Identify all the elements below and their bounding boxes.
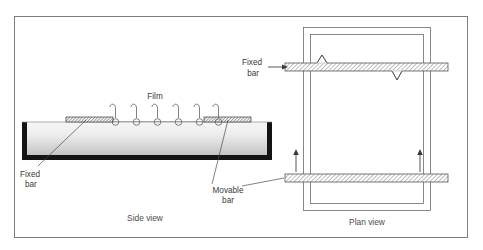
plan-movable-bar [285,174,448,182]
plan-fixed-bar-label-line2: bar [247,69,259,78]
side-movable-bar-label-line1: Movable [213,186,244,195]
side-fixed-bar-label-line1: Fixed [20,170,40,179]
apparatus-diagram: Film Fixed bar Movable bar Side view [0,0,483,250]
side-movable-bar-label-line2: bar [222,196,234,205]
side-view-caption: Side view [127,213,164,223]
figure-canvas: Film Fixed bar Movable bar Side view [0,0,483,250]
side-fixed-bar [66,117,113,122]
plan-fixed-bar-label-line1: Fixed [242,58,262,67]
film-label: Film [147,92,163,101]
plan-view-caption: Plan view [349,217,386,227]
trough-interior [27,122,267,155]
side-fixed-bar-label-line2: bar [25,180,37,189]
